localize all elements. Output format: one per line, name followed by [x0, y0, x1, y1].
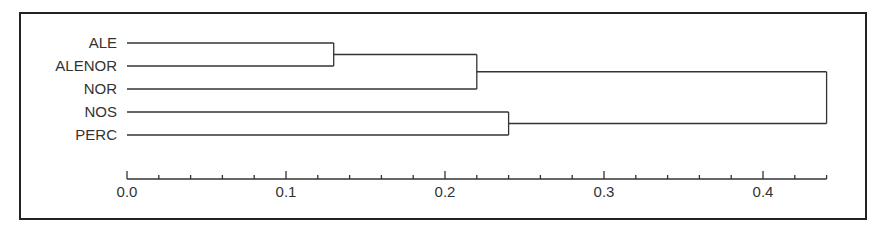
leaf-labels: ALEALENORNORNOSPERC: [55, 34, 117, 143]
x-axis: [127, 171, 827, 179]
x-axis-tick-labels: 0.00.10.20.30.4: [117, 183, 774, 200]
leaf-label: ALENOR: [55, 57, 117, 74]
x-tick-label: 0.3: [594, 183, 615, 200]
leaf-label: ALE: [89, 34, 117, 51]
x-tick-label: 0.0: [117, 183, 138, 200]
x-tick-label: 0.4: [753, 183, 774, 200]
x-tick-label: 0.2: [435, 183, 456, 200]
leaf-label: NOR: [84, 80, 118, 97]
leaf-label: PERC: [75, 126, 117, 143]
x-tick-label: 0.1: [276, 183, 297, 200]
leaf-label: NOS: [84, 103, 117, 120]
dendrogram-branches: [127, 43, 827, 135]
dendrogram-chart: ALEALENORNORNOSPERC 0.00.10.20.30.4: [0, 0, 888, 231]
